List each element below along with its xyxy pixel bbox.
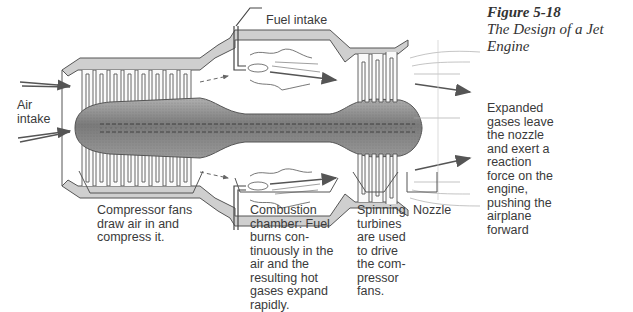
label-combustion: Combustion chamber: Fuel burns con- tinu… bbox=[250, 204, 333, 312]
label-fuel-intake: Fuel intake bbox=[266, 14, 327, 28]
label-nozzle: Nozzle bbox=[413, 204, 451, 218]
exhaust-arrows bbox=[415, 84, 470, 170]
combustion-bracket bbox=[235, 178, 338, 192]
figure-number: Figure 5-18 bbox=[487, 4, 633, 21]
engine-casing-top bbox=[62, 30, 408, 76]
label-turbines: Spinning turbines are used to drive the … bbox=[357, 204, 406, 299]
label-exhaust: Expanded gases leave the nozzle and exer… bbox=[487, 102, 554, 237]
label-compressor: Compressor fans draw air in and compress… bbox=[97, 204, 192, 245]
label-air-intake: Air intake bbox=[17, 99, 50, 126]
figure-title: Figure 5-18 The Design of a Jet Engine bbox=[487, 4, 633, 55]
turbine-blades-top bbox=[358, 52, 397, 102]
turbine-blades-bottom bbox=[358, 154, 397, 204]
central-shaft bbox=[75, 98, 422, 158]
figure-caption: The Design of a Jet Engine bbox=[487, 21, 633, 55]
